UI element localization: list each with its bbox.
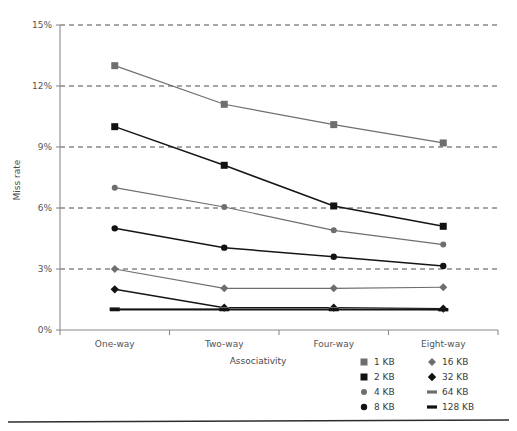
x-tick-label: Two-way (204, 339, 244, 349)
data-point (221, 204, 227, 210)
legend-marker-dash-icon (427, 390, 437, 393)
x-tick-label: Four-way (313, 339, 354, 349)
data-point (331, 227, 337, 233)
data-point (331, 254, 337, 260)
data-point (221, 101, 228, 108)
y-tick-label: 0% (38, 325, 53, 335)
data-point (221, 244, 227, 250)
legend-label: 32 KB (442, 372, 468, 382)
data-point (112, 225, 118, 231)
legend-label: 4 KB (374, 387, 395, 397)
y-axis-title: Miss rate (12, 159, 22, 200)
x-tick-label: Eight-way (421, 339, 466, 349)
data-point (112, 185, 118, 191)
data-point (221, 162, 228, 169)
chart-background (0, 0, 517, 431)
data-point (329, 308, 339, 311)
legend-label: 1 KB (374, 357, 395, 367)
legend-label: 16 KB (442, 357, 468, 367)
legend-label: 128 KB (442, 402, 474, 412)
data-point (440, 139, 447, 146)
legend-marker-square-icon (361, 374, 368, 381)
data-point (111, 62, 118, 69)
y-tick-label: 3% (38, 264, 53, 274)
data-point (330, 202, 337, 209)
legend-marker-dash-icon (427, 405, 437, 408)
data-point (438, 308, 448, 311)
y-tick-label: 9% (38, 142, 53, 152)
data-point (440, 242, 446, 248)
y-tick-label: 6% (38, 203, 53, 213)
data-point (110, 308, 120, 311)
x-axis-title: Associativity (230, 356, 287, 366)
miss-rate-chart: 0%3%6%9%12%15% One-wayTwo-wayFour-wayEig… (0, 0, 517, 431)
x-tick-label: One-way (95, 339, 135, 349)
y-tick-label: 12% (32, 81, 52, 91)
legend-label: 8 KB (374, 402, 395, 412)
legend-marker-circle-icon (361, 404, 367, 410)
legend-marker-square-icon (361, 359, 368, 366)
legend-label: 64 KB (442, 387, 468, 397)
data-point (330, 121, 337, 128)
legend-marker-circle-icon (361, 389, 367, 395)
data-point (440, 263, 446, 269)
y-tick-label: 15% (32, 20, 52, 30)
data-point (440, 223, 447, 230)
legend-label: 2 KB (374, 372, 395, 382)
data-point (219, 308, 229, 311)
data-point (111, 123, 118, 130)
